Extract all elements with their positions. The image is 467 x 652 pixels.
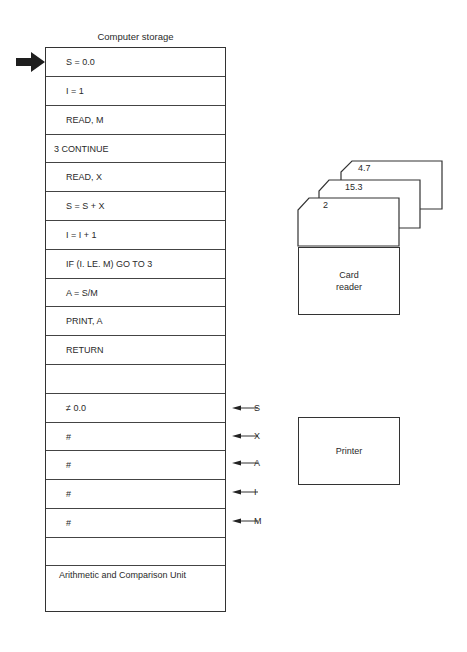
pointer-label-s: S — [254, 403, 260, 413]
storage-cell-text: READ, M — [46, 115, 104, 125]
storage-cell-text: 3 CONTINUE — [46, 144, 109, 154]
storage-row-16-var-m: # — [46, 509, 225, 538]
card-3-value: 4.7 — [358, 163, 371, 173]
alu-label: Arithmetic and Comparison Unit — [46, 566, 225, 580]
storage-cell-text: # — [46, 460, 71, 470]
storage-cell-text: S = S + X — [46, 201, 105, 211]
card-reader-label-line1: Card — [339, 269, 359, 281]
storage-row-11 — [46, 365, 225, 394]
instruction-pointer-arrow-icon — [16, 52, 46, 72]
storage-row-17 — [46, 538, 225, 566]
pointer-arrow-i-icon — [226, 487, 266, 497]
arithmetic-comparison-unit: Arithmetic and Comparison Unit — [46, 566, 225, 611]
storage-row-3: 3 CONTINUE — [46, 135, 225, 163]
storage-row-2: READ, M — [46, 106, 225, 135]
pointer-label-m: M — [254, 516, 262, 526]
storage-row-8: A = S/M — [46, 279, 225, 307]
storage-cell-text: RETURN — [46, 345, 104, 355]
storage-cell-text: I = I + 1 — [46, 230, 97, 240]
storage-cell-text: READ, X — [46, 172, 102, 182]
storage-row-10: RETURN — [46, 336, 225, 365]
printer: Printer — [298, 417, 400, 485]
card-1-value: 2 — [323, 200, 328, 210]
storage-cell-text: # — [46, 432, 71, 442]
storage-cell-text: PRINT, A — [46, 316, 103, 326]
storage-row-6: I = I + 1 — [46, 221, 225, 250]
card-2-value: 15.3 — [345, 182, 363, 192]
card-1-outline-icon — [298, 198, 399, 246]
storage-cell-text: A = S/M — [46, 288, 98, 298]
storage-row-15-var-i: # — [46, 480, 225, 509]
storage-row-13-var-x: # — [46, 423, 225, 451]
storage-cell-text: IF (I. LE. M) GO TO 3 — [46, 259, 152, 269]
storage-cell-text: S = 0.0 — [46, 57, 95, 67]
card-reader: Card reader — [298, 247, 400, 315]
storage-cell-text: # — [46, 489, 71, 499]
card-reader-label-line2: reader — [336, 281, 362, 293]
storage-row-14-var-a: # — [46, 451, 225, 480]
storage-row-12-var-s: ≠ 0.0 — [46, 394, 225, 423]
storage-title: Computer storage — [45, 31, 226, 42]
storage-row-1: I = 1 — [46, 77, 225, 106]
storage-row-4: READ, X — [46, 163, 225, 192]
storage-row-0: S = 0.0 — [46, 48, 225, 77]
storage-row-7: IF (I. LE. M) GO TO 3 — [46, 250, 225, 279]
pointer-label-a: A — [254, 458, 260, 468]
pointer-label-i: I — [254, 487, 257, 497]
storage-row-5: S = S + X — [46, 192, 225, 221]
storage-row-9: PRINT, A — [46, 307, 225, 336]
punched-card-stack — [296, 160, 446, 250]
storage-cell-text: # — [46, 518, 71, 528]
pointer-label-x: X — [254, 431, 260, 441]
computer-storage: S = 0.0 I = 1 READ, M 3 CONTINUE READ, X… — [45, 47, 226, 612]
storage-cell-text: I = 1 — [46, 86, 84, 96]
storage-cell-text: ≠ 0.0 — [46, 403, 86, 413]
printer-label: Printer — [336, 445, 363, 457]
